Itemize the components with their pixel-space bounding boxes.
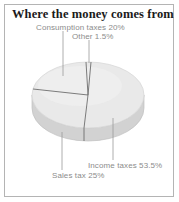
- pie-label-other: Other 1.5%: [72, 32, 113, 41]
- pie-highlight: [38, 66, 122, 106]
- chart-figure: Where the money comes from Consumption t…: [0, 0, 179, 202]
- pie-label-sales-tax: Sales tax 25%: [52, 171, 104, 180]
- pie-label-income-taxes: Income taxes 53.5%: [88, 161, 162, 170]
- pie-label-consumption-taxes: Consumption taxes 20%: [36, 23, 125, 32]
